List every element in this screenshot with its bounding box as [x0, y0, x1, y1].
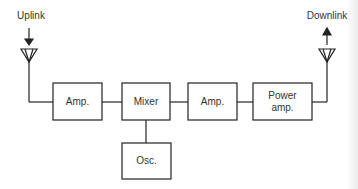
uplink-antenna-icon — [21, 49, 37, 102]
osc-label: Osc. — [122, 155, 171, 167]
power-amp-label-line1: Power — [253, 90, 312, 102]
amp1-label: Amp. — [53, 96, 102, 108]
mixer-label: Mixer — [122, 96, 170, 108]
downlink-antenna-icon — [319, 49, 335, 102]
downlink-arrow-icon — [323, 28, 331, 45]
uplink-arrow-icon — [25, 28, 33, 45]
power-amp-label-line2: amp. — [253, 102, 312, 114]
amp2-label: Amp. — [188, 96, 237, 108]
uplink-label: Uplink — [14, 10, 48, 22]
downlink-label: Downlink — [304, 10, 350, 22]
